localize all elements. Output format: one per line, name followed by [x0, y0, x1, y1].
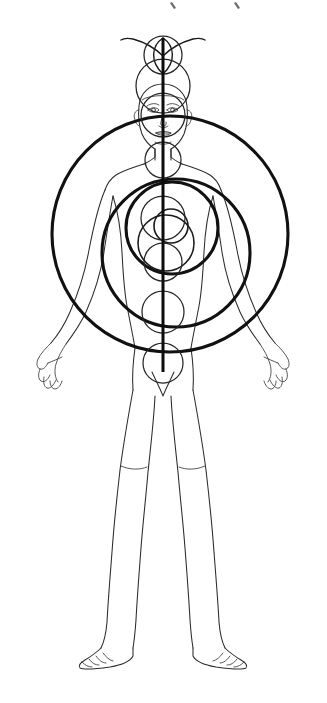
diagram-canvas: Human Body Chakra Sacred Geometry Diagra…: [0, 0, 327, 703]
chakra-body-diagram: [0, 0, 327, 703]
